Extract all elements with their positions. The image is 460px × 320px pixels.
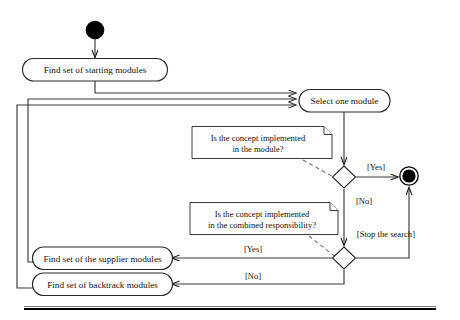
action-find-backtrack-modules-label: Find set of backtrack modules <box>47 280 158 290</box>
edge-label-stop-the-search: [Stop the search] <box>357 229 415 239</box>
edge-label-yes-2: [Yes] <box>244 244 262 254</box>
activity-diagram-canvas: Find set of starting modules Select one … <box>0 0 460 320</box>
note-combined-responsibility-line2: in the combined responsibility? <box>208 220 316 230</box>
note2-anchor-link <box>309 236 337 258</box>
initial-node <box>86 21 105 40</box>
edge-label-yes-1: [Yes] <box>367 162 385 172</box>
decision-node-1[interactable] <box>333 166 356 188</box>
action-find-starting-modules-label: Find set of starting modules <box>44 65 147 75</box>
note-concept-in-module-line1: Is the concept implemented <box>211 133 306 143</box>
action-select-one-module[interactable]: Select one module <box>299 90 390 113</box>
action-find-starting-modules[interactable]: Find set of starting modules <box>23 59 168 82</box>
edge-find-starting-to-select <box>95 81 296 93</box>
edge-label-no-2: [No] <box>245 271 261 281</box>
action-find-backtrack-modules[interactable]: Find set of backtrack modules <box>33 273 173 296</box>
action-find-supplier-modules[interactable]: Find set of the supplier modules <box>33 247 173 270</box>
action-select-one-module-label: Select one module <box>311 96 379 106</box>
final-node <box>400 167 418 185</box>
svg-text:[Stop the search]: [Stop the search] <box>357 229 415 239</box>
svg-text:[No]: [No] <box>245 271 261 281</box>
bottom-divider-rule <box>24 307 436 310</box>
note1-anchor-link <box>303 160 337 179</box>
uml-activity-diagram: Find set of starting modules Select one … <box>0 0 460 320</box>
svg-text:[Yes]: [Yes] <box>367 162 385 172</box>
note-concept-in-module: Is the concept implemented in the module… <box>192 127 332 159</box>
edge-label-no-1: [No] <box>356 196 372 206</box>
note-combined-responsibility-line1: Is the concept implemented <box>215 209 310 219</box>
action-find-supplier-modules-label: Find set of the supplier modules <box>43 254 162 264</box>
edge-supplier-return-to-select <box>28 99 296 262</box>
note-concept-in-combined-responsibility: Is the concept implemented in the combin… <box>190 203 338 235</box>
svg-text:[Yes]: [Yes] <box>244 244 262 254</box>
svg-text:[No]: [No] <box>356 196 372 206</box>
note-concept-in-module-line2: in the module? <box>232 144 283 154</box>
decision-node-2[interactable] <box>333 247 356 269</box>
